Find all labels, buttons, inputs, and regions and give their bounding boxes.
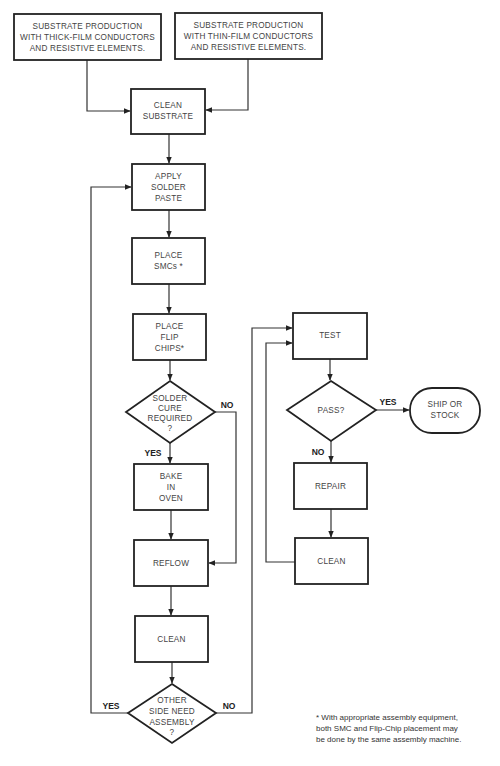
- node-label: STOCK: [430, 411, 459, 420]
- node-label: TEST: [319, 331, 341, 340]
- flowchart: SUBSTRATE PRODUCTION WITH THICK-FILM CON…: [0, 0, 500, 766]
- edge-thin-to-clean: [206, 59, 248, 110]
- terminal-ship-or-stock: SHIP OR STOCK: [410, 388, 480, 433]
- node-repair: REPAIR: [294, 463, 367, 509]
- node-label: SIDE NEED: [149, 707, 195, 716]
- node-label: SHIP OR: [428, 400, 463, 409]
- node-label: REQUIRED: [148, 414, 193, 423]
- edge-label-pass-no: NO: [312, 447, 325, 457]
- node-label: WITH THIN-FILM CONDUCTORS: [184, 32, 314, 41]
- edge-label-other-no: NO: [223, 701, 236, 711]
- node-place-flip-chips: PLACE FLIP CHIPS*: [133, 314, 206, 360]
- edge-other-yes: [91, 187, 131, 713]
- node-label: CLEAN: [154, 101, 182, 110]
- node-place-smcs: PLACE SMCs *: [132, 238, 205, 284]
- node-label: AND RESISTIVE ELEMENTS.: [30, 44, 146, 53]
- footnote-line: both SMC and Flip-Chip placement may: [316, 723, 500, 734]
- node-label: ASSEMBLY: [149, 718, 194, 727]
- node-label: REPAIR: [315, 482, 346, 491]
- edge-label-cure-no: NO: [221, 400, 234, 410]
- node-label: PLACE: [155, 251, 183, 260]
- node-label: AND RESISTIVE ELEMENTS.: [191, 43, 307, 52]
- edge-label-pass-yes: YES: [379, 397, 396, 407]
- decision-pass: PASS?: [287, 381, 376, 441]
- node-label: PASTE: [155, 194, 183, 203]
- node-label: SUBSTRATE PRODUCTION: [194, 21, 304, 30]
- node-label: OTHER: [157, 696, 187, 705]
- node-bake-in-oven: BAKE IN OVEN: [134, 464, 208, 510]
- node-clean-left: CLEAN: [135, 616, 208, 662]
- node-label: SOLDER: [153, 394, 188, 403]
- node-label: PLACE: [156, 322, 184, 331]
- decision-solder-cure: SOLDER CURE REQUIRED ?: [126, 381, 215, 443]
- node-label: IN: [167, 483, 176, 492]
- edge-label-other-yes: YES: [102, 701, 119, 711]
- node-test: TEST: [293, 313, 367, 359]
- edge-thick-to-clean: [87, 60, 130, 111]
- node-label: REFLOW: [153, 559, 189, 568]
- edge-other-no: [216, 328, 292, 713]
- node-label: CHIPS*: [155, 344, 185, 353]
- footnote-line: * With appropriate assembly equipment,: [316, 712, 500, 723]
- node-label: CURE: [158, 404, 182, 413]
- decision-other-side-assembly: OTHER SIDE NEED ASSEMBLY ?: [128, 684, 216, 743]
- node-label: ?: [170, 728, 175, 737]
- node-apply-solder-paste: APPLY SOLDER PASTE: [132, 164, 205, 210]
- connectors: [87, 59, 409, 713]
- node-reflow: REFLOW: [134, 540, 208, 586]
- node-label: SUBSTRATE PRODUCTION: [33, 22, 143, 31]
- node-thick-film: SUBSTRATE PRODUCTION WITH THICK-FILM CON…: [14, 14, 161, 60]
- footnote-line: be done by the same assembly machine.: [316, 734, 500, 745]
- node-label: PASS?: [318, 406, 345, 415]
- node-label: WITH THICK-FILM CONDUCTORS: [20, 33, 155, 42]
- footnote: * With appropriate assembly equipment, b…: [316, 712, 500, 745]
- node-label: SUBSTRATE: [143, 112, 194, 121]
- edge-label-cure-yes: YES: [144, 448, 161, 458]
- edge-cure-no: [209, 412, 236, 563]
- node-label: APPLY: [155, 172, 182, 181]
- node-label: CLEAN: [157, 635, 185, 644]
- edge-clean-to-test: [266, 343, 295, 562]
- node-label: CLEAN: [317, 557, 345, 566]
- node-label: SMCs *: [154, 262, 184, 271]
- node-label: ?: [168, 424, 173, 433]
- node-clean-substrate: CLEAN SUBSTRATE: [131, 89, 205, 134]
- node-thin-film: SUBSTRATE PRODUCTION WITH THIN-FILM COND…: [175, 13, 322, 59]
- node-clean-right: CLEAN: [295, 538, 368, 584]
- node-label: SOLDER: [151, 183, 186, 192]
- node-label: FLIP: [160, 333, 178, 342]
- node-label: OVEN: [159, 494, 183, 503]
- node-label: BAKE: [160, 472, 183, 481]
